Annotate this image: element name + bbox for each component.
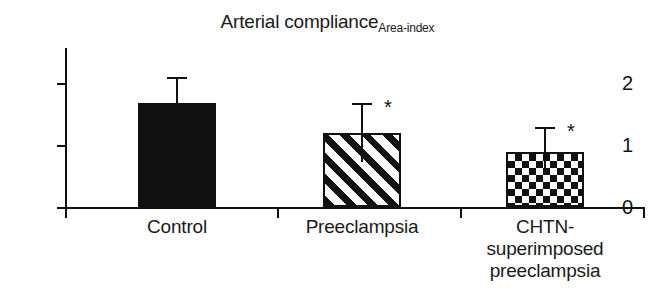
y-axis-tick-label: 0 [605, 197, 633, 217]
error-bar-stem [544, 127, 546, 173]
error-bar-cap [535, 127, 555, 129]
x-axis-category-label-line: Preeclampsia [262, 216, 462, 238]
x-axis-spine [65, 207, 645, 209]
chart-figure: Arterial complianceArea-index ACA-index … [0, 0, 655, 301]
chart-title-subscript: Area-index [378, 21, 434, 35]
x-axis-category-label-line: CHTN- [445, 216, 645, 238]
error-bar-stem [361, 103, 363, 162]
y-axis-tick-label: 1 [605, 135, 633, 155]
y-axis-tick [57, 83, 66, 85]
plot-area: 012 ** [65, 48, 645, 208]
significance-marker: * [567, 121, 575, 141]
y-axis-tick [57, 145, 66, 147]
chart-title-main: Arterial compliance [221, 11, 379, 32]
x-axis-tick [65, 208, 67, 218]
significance-marker: * [384, 97, 392, 117]
x-axis-category-label-line: superimposed [445, 238, 645, 260]
x-axis-category-label-line: Control [77, 216, 277, 238]
x-axis-category-label: Control [77, 216, 277, 238]
x-axis-category-label: Preeclampsia [262, 216, 462, 238]
y-axis-tick-label: 2 [605, 73, 633, 93]
x-axis-category-label-line: preeclampsia [445, 260, 645, 282]
error-bar-cap [167, 77, 187, 79]
error-bar-cap [352, 103, 372, 105]
chart-title: Arterial complianceArea-index [0, 11, 655, 35]
y-axis-spine [65, 48, 67, 208]
x-axis-category-label: CHTN-superimposedpreeclampsia [445, 216, 645, 282]
error-bar-stem [176, 77, 178, 144]
